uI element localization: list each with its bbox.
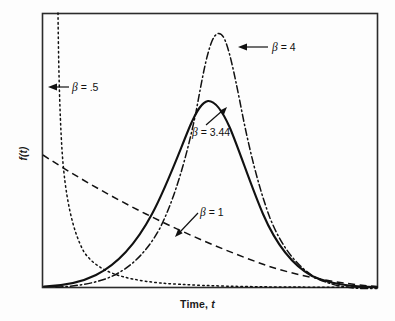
curve-label-beta-half: β = .5 — [72, 81, 98, 93]
x-axis-label-text: Time, — [180, 298, 211, 310]
beta-equals-4: = — [278, 41, 290, 53]
curve-label-beta-4: β = 4 — [272, 41, 296, 53]
beta-equals-344: = — [198, 126, 210, 138]
plot-frame — [43, 14, 378, 288]
plot-area — [0, 0, 395, 321]
beta-equals-1: = — [206, 206, 218, 218]
beta-value-1: 1 — [218, 206, 224, 218]
beta-value-344: 3.44 — [210, 126, 230, 138]
x-axis-label: Time, t — [0, 298, 395, 310]
x-axis-label-variable: t — [211, 298, 215, 310]
curve-label-beta-1: β = 1 — [200, 206, 224, 218]
beta-value-half: .5 — [90, 81, 99, 93]
beta-value-4: 4 — [290, 41, 296, 53]
curve-label-beta-344: β = 3.44 — [192, 126, 230, 138]
weibull-pdf-figure: β = 4 β = .5 β = 3.44 β = 1 Time, t f(t) — [0, 0, 395, 321]
beta-equals-half: = — [78, 81, 90, 93]
y-axis-label: f(t) — [18, 139, 29, 169]
